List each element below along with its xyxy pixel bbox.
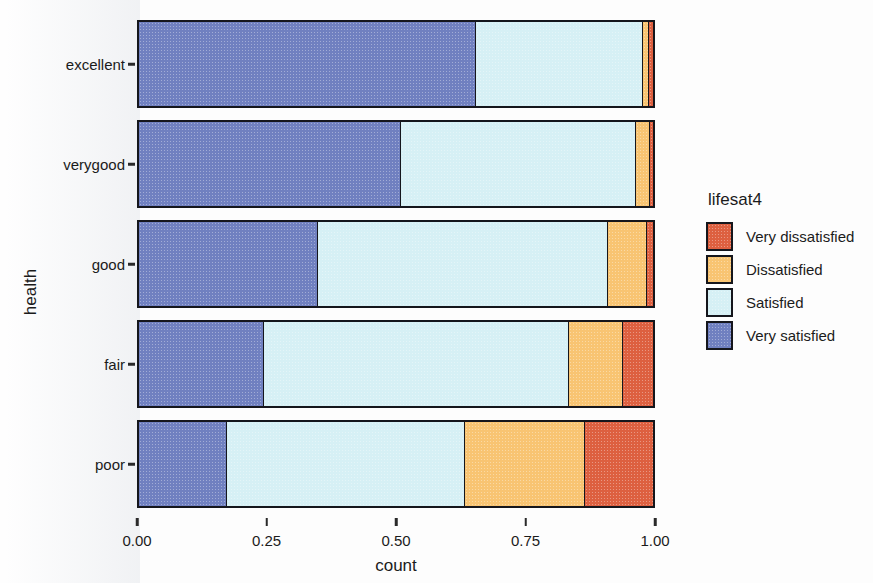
segment-poor-dissatisfied — [465, 422, 584, 506]
plot-panel — [137, 14, 655, 514]
segment-verygood-very-satisfied — [139, 122, 401, 206]
legend-item-very-satisfied: Very satisfied — [706, 319, 871, 352]
x-tick-mark — [265, 518, 268, 526]
legend-label: Very satisfied — [746, 327, 835, 344]
y-tick-label-excellent: excellent — [66, 56, 125, 73]
legend-item-very-dissatisfied: Very dissatisfied — [706, 220, 871, 253]
bar-fair — [137, 320, 655, 408]
legend-item-satisfied: Satisfied — [706, 286, 871, 319]
bar-excellent — [137, 20, 655, 108]
legend-title: lifesat4 — [708, 190, 871, 210]
x-tick-mark — [524, 518, 527, 526]
segment-excellent-very-satisfied — [139, 22, 476, 106]
y-tick-label-poor: poor — [95, 456, 125, 473]
segment-good-very-satisfied — [139, 222, 318, 306]
x-tick-label-0.25: 0.25 — [252, 532, 281, 549]
segment-poor-very-dissatisfied — [585, 422, 653, 506]
x-tick-mark — [654, 518, 657, 526]
segment-fair-very-satisfied — [139, 322, 264, 406]
x-tick-mark — [136, 518, 139, 526]
segment-excellent-dissatisfied — [643, 22, 650, 106]
legend-swatch-very-satisfied — [706, 321, 733, 350]
segment-verygood-very-dissatisfied — [650, 122, 653, 206]
legend: lifesat4 Very dissatisfiedDissatisfiedSa… — [706, 190, 871, 352]
x-tick-label-1.00: 1.00 — [640, 532, 669, 549]
legend-items: Very dissatisfiedDissatisfiedSatisfiedVe… — [706, 220, 871, 352]
y-tick-mark — [128, 263, 135, 266]
segment-good-dissatisfied — [608, 222, 647, 306]
x-tick-mark — [395, 518, 398, 526]
y-axis-title: health — [21, 268, 41, 314]
segment-excellent-very-dissatisfied — [649, 22, 653, 106]
y-tick-label-verygood: verygood — [63, 156, 125, 173]
legend-swatch-satisfied — [706, 288, 733, 317]
segment-good-satisfied — [318, 222, 608, 306]
y-tick-mark — [128, 163, 135, 166]
legend-label: Dissatisfied — [746, 261, 823, 278]
y-tick-mark — [128, 363, 135, 366]
segment-excellent-satisfied — [476, 22, 643, 106]
segment-good-very-dissatisfied — [647, 222, 653, 306]
bar-good — [137, 220, 655, 308]
x-tick-label-0.75: 0.75 — [511, 532, 540, 549]
segment-fair-dissatisfied — [569, 322, 623, 406]
segment-verygood-dissatisfied — [636, 122, 650, 206]
legend-swatch-very-dissatisfied — [706, 222, 733, 251]
x-axis-title: count — [137, 556, 655, 576]
legend-label: Satisfied — [746, 294, 804, 311]
segment-verygood-satisfied — [401, 122, 636, 206]
y-tick-mark — [128, 63, 135, 66]
legend-swatch-dissatisfied — [706, 255, 733, 284]
segment-poor-satisfied — [227, 422, 465, 506]
x-tick-label-0.50: 0.50 — [381, 532, 410, 549]
legend-item-dissatisfied: Dissatisfied — [706, 253, 871, 286]
y-tick-label-fair: fair — [104, 356, 125, 373]
chart-container: health excellentverygoodgoodfairpoor 0.0… — [0, 0, 873, 583]
segment-fair-very-dissatisfied — [623, 322, 653, 406]
legend-label: Very dissatisfied — [746, 228, 854, 245]
y-tick-mark — [128, 463, 135, 466]
segment-poor-very-satisfied — [139, 422, 227, 506]
segment-fair-satisfied — [264, 322, 568, 406]
x-tick-label-0.00: 0.00 — [122, 532, 151, 549]
bar-verygood — [137, 120, 655, 208]
bar-poor — [137, 420, 655, 508]
y-tick-label-good: good — [92, 256, 125, 273]
